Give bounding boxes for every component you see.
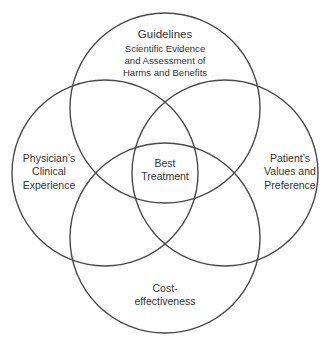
center-line-2: Treatment: [132, 170, 198, 183]
patient-line-3: Preference: [250, 179, 330, 192]
patient-line-2: Values and: [250, 165, 330, 178]
patient-line-1: Patient’s: [250, 152, 330, 165]
center-line-1: Best: [132, 157, 198, 170]
physician-line-3: Experience: [15, 179, 83, 192]
patient-values-label: Patient’s Values and Preference: [250, 152, 330, 192]
cost-effectiveness-label: Cost- effectiveness: [120, 282, 210, 309]
guidelines-line-2: and Assessment of: [95, 55, 235, 67]
best-treatment-label: Best Treatment: [132, 157, 198, 184]
guidelines-subtitle: Scientific Evidence and Assessment of Ha…: [95, 43, 235, 79]
venn-diagram: Guidelines Scientific Evidence and Asses…: [0, 0, 330, 338]
physician-line-1: Physician’s: [15, 152, 83, 165]
physician-experience-label: Physician’s Clinical Experience: [15, 152, 83, 192]
cost-line-1: Cost-: [120, 282, 210, 295]
guidelines-line-3: Harms and Benefits: [95, 67, 235, 79]
cost-line-2: effectiveness: [120, 295, 210, 308]
guidelines-line-1: Scientific Evidence: [95, 43, 235, 55]
physician-line-2: Clinical: [15, 165, 83, 178]
guidelines-title: Guidelines: [95, 28, 235, 42]
